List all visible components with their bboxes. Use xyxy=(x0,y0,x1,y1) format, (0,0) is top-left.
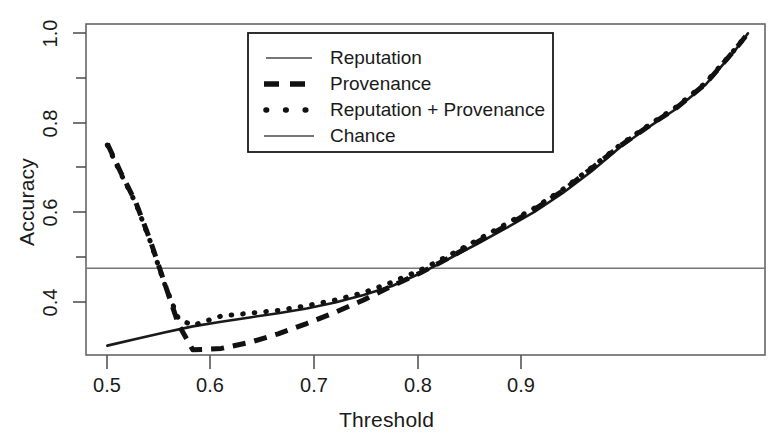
y-tick-label-0.6: 0.6 xyxy=(39,190,62,236)
x-tick-label-0.6: 0.6 xyxy=(180,374,240,397)
x-tick-label-0.5: 0.5 xyxy=(77,374,137,397)
x-axis-ticks xyxy=(107,355,521,369)
x-axis-title: Threshold xyxy=(0,408,773,432)
legend-label-reputation-provenance: Reputation + Provenance xyxy=(330,99,545,121)
y-axis-ticks xyxy=(73,33,86,302)
y-tick-label-1.0: 1.0 xyxy=(39,11,62,57)
chart-figure: Accuracy Threshold 1.0 0.8 0.6 0.4 0.5 0… xyxy=(0,0,773,446)
legend-label-reputation: Reputation xyxy=(330,47,422,69)
legend-label-chance: Chance xyxy=(330,125,396,147)
legend-label-provenance: Provenance xyxy=(330,73,431,95)
x-tick-label-0.9: 0.9 xyxy=(491,374,551,397)
y-axis-title: Accuracy xyxy=(15,142,39,262)
y-tick-label-0.8: 0.8 xyxy=(39,101,62,147)
y-tick-label-0.4: 0.4 xyxy=(39,280,62,326)
x-tick-label-0.7: 0.7 xyxy=(284,374,344,397)
x-tick-label-0.8: 0.8 xyxy=(388,374,448,397)
